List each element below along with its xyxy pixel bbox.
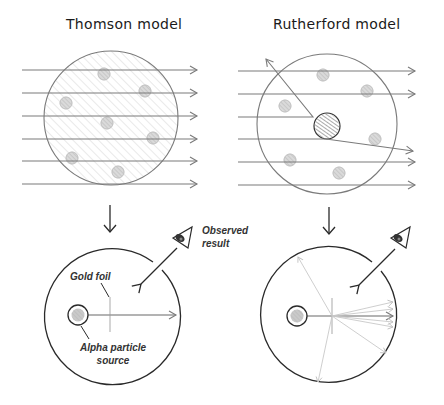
gold-foil-leader xyxy=(101,283,109,297)
alpha-source-label-line2: source xyxy=(80,354,146,367)
eye-icon xyxy=(391,227,410,248)
alpha-source-label: Alpha particle source xyxy=(80,341,146,367)
eye-icon xyxy=(173,227,192,248)
down-arrow-icon xyxy=(323,207,335,234)
alpha-source xyxy=(287,306,307,326)
diagram-canvas xyxy=(0,0,444,405)
observed-result-label-line1: Observed xyxy=(202,224,248,237)
rutherford-atom xyxy=(257,54,397,194)
down-arrow-icon xyxy=(104,205,116,232)
scattered-alpha-paths xyxy=(298,257,393,382)
thomson-title: Thomson model xyxy=(66,16,182,32)
alpha-source-leader xyxy=(81,326,89,339)
observed-result-label: Observed result xyxy=(202,224,248,250)
observed-result-label-line2: result xyxy=(202,237,248,250)
rutherford-title: Rutherford model xyxy=(273,16,400,32)
gold-foil-label: Gold foil xyxy=(70,270,111,283)
alpha-source-label-line1: Alpha particle xyxy=(80,341,146,354)
rutherford-experiment xyxy=(261,246,397,382)
nucleus xyxy=(314,113,340,139)
alpha-source xyxy=(68,305,88,325)
thomson-atom xyxy=(44,51,178,185)
